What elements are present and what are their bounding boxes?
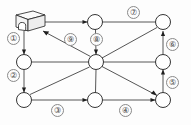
arrowhead-center-to-depot: [43, 31, 49, 35]
arrowhead-bottom-right-to-right-mid: [161, 70, 165, 75]
arrowhead-top-center-to-center: [94, 50, 98, 55]
edge-label-3: ③: [51, 104, 64, 117]
node-bottom-left[interactable]: [17, 93, 32, 108]
node-bottom-right[interactable]: [156, 93, 171, 108]
edge-label-8: ⑧: [90, 33, 103, 46]
node-right-mid[interactable]: [156, 55, 171, 70]
edge-bottom-left-to-center: [30, 67, 90, 95]
arrowhead-center-to-bottom-right: [151, 90, 157, 95]
arrowhead-left-mid-to-bottom-left: [22, 88, 26, 93]
edge-label-1: ①: [7, 32, 20, 45]
node-top-center[interactable]: [88, 15, 103, 30]
edge-label-9: ⑨: [64, 33, 77, 46]
arrowhead-depot-to-left-mid: [22, 50, 26, 55]
arrowhead-depot-to-top-center: [83, 20, 88, 24]
edge-label-5: ⑤: [166, 76, 179, 89]
arrowhead-bottom-left-to-bottom-center: [83, 98, 88, 102]
node-left-mid[interactable]: [17, 55, 32, 70]
edge-label-2: ②: [7, 69, 20, 82]
edge-label-7: ⑦: [127, 6, 140, 19]
edge-bottom-center-to-center: [96, 70, 97, 93]
graph-canvas: [0, 0, 191, 125]
node-bottom-center[interactable]: [88, 93, 103, 108]
graph-diagram: ① ② ③ ④ ⑤ ⑥ ⑦ ⑧ ⑨: [0, 0, 191, 125]
depot-box-icon: [16, 11, 45, 31]
node-center[interactable]: [89, 55, 104, 70]
arrowhead-bottom-center-to-bottom-right: [151, 98, 156, 102]
edge-center-to-bottom-right: [102, 67, 157, 96]
edge-top-right-to-center: [102, 28, 157, 59]
edge-label-6: ⑥: [166, 38, 179, 51]
arrowhead-right-mid-to-top-right: [161, 31, 165, 36]
edge-label-4: ④: [119, 104, 132, 117]
node-layer: [17, 15, 171, 108]
node-top-right[interactable]: [156, 15, 171, 30]
